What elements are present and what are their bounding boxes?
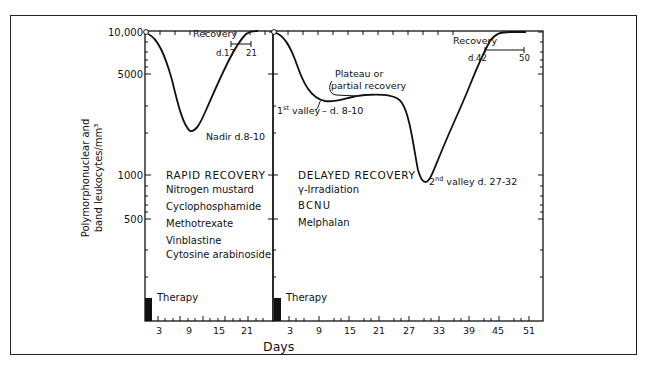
svg-text:10,000: 10,000: [108, 27, 143, 38]
svg-text:9: 9: [316, 325, 322, 336]
svg-text:21: 21: [373, 325, 385, 336]
svg-text:9: 9: [186, 325, 192, 336]
y-tick-labels: 10,000 5000 1000 500: [108, 27, 143, 225]
svg-text:d.42: d.42: [468, 53, 487, 63]
start-marker-rapid: [144, 30, 149, 35]
svg-text:Plateau or: Plateau or: [335, 68, 383, 79]
svg-text:Vinblastine: Vinblastine: [166, 235, 221, 246]
svg-text:γ-Irradiation: γ-Irradiation: [298, 184, 359, 195]
therapy-label-delayed: Therapy: [285, 292, 327, 303]
therapy-bar-delayed: [274, 298, 281, 321]
svg-text:Melphalan: Melphalan: [298, 217, 350, 228]
annotations-delayed: Plateau or partial recovery 1st valley –…: [277, 35, 530, 187]
curve-rapid-recovery: [148, 31, 258, 131]
svg-text:1000: 1000: [118, 170, 143, 181]
therapy-bar-rapid: [145, 298, 152, 321]
svg-text:Cyclophosphamide: Cyclophosphamide: [166, 201, 261, 212]
svg-text:Polymorphonuclear and: Polymorphonuclear and: [80, 119, 91, 238]
svg-text:51: 51: [523, 325, 535, 336]
svg-text:Methotrexate: Methotrexate: [166, 218, 233, 229]
svg-text:2nd valley d. 27-32: 2nd valley d. 27-32: [429, 175, 517, 187]
svg-text:DELAYED RECOVERY: DELAYED RECOVERY: [298, 169, 415, 181]
svg-text:Recovery: Recovery: [193, 28, 237, 39]
svg-text:50: 50: [519, 53, 530, 63]
svg-text:33: 33: [433, 325, 445, 336]
svg-text:1st valley: 1st valley: [277, 104, 321, 116]
svg-text:15: 15: [344, 325, 356, 336]
svg-text:band leukocytes/mm³: band leukocytes/mm³: [93, 124, 104, 233]
annotations-rapid: Recovery d.17 21 Nadir d.8-10: [193, 28, 265, 142]
x-axis-label: Days: [263, 339, 294, 354]
svg-text:d.17: d.17: [216, 48, 235, 58]
svg-text:15: 15: [213, 325, 225, 336]
x-tick-labels-delayed: 3 9 15 21 27 33 39 45 51: [287, 325, 535, 336]
therapy-label-rapid: Therapy: [156, 292, 198, 303]
svg-text:21: 21: [246, 48, 257, 58]
legend-rapid: RAPID RECOVERY Nitrogen mustard Cyclopho…: [166, 169, 271, 260]
chart-svg: Polymorphonuclear and band leukocytes/mm…: [0, 0, 646, 367]
svg-text:27: 27: [403, 325, 415, 336]
svg-text:45: 45: [492, 325, 504, 336]
y-axis-label: Polymorphonuclear and band leukocytes/mm…: [80, 119, 104, 238]
svg-text:Recovery: Recovery: [453, 35, 497, 46]
svg-text:Nitrogen mustard: Nitrogen mustard: [166, 184, 254, 195]
svg-text:5000: 5000: [118, 69, 143, 80]
svg-text:partial recovery: partial recovery: [331, 80, 407, 91]
svg-text:Cytosine arabinoside: Cytosine arabinoside: [166, 249, 271, 260]
svg-text:– d. 8-10: – d. 8-10: [322, 105, 363, 116]
svg-text:21: 21: [241, 325, 253, 336]
start-marker-delayed: [272, 30, 277, 35]
svg-text:BCNU: BCNU: [298, 200, 331, 211]
legend-delayed: DELAYED RECOVERY γ-Irradiation BCNU Melp…: [298, 169, 415, 228]
svg-text:39: 39: [463, 325, 475, 336]
svg-text:500: 500: [124, 214, 143, 225]
svg-text:RAPID RECOVERY: RAPID RECOVERY: [166, 169, 266, 181]
svg-text:Nadir d.8-10: Nadir d.8-10: [206, 131, 265, 142]
svg-text:3: 3: [287, 325, 293, 336]
svg-text:3: 3: [156, 325, 162, 336]
x-tick-labels-rapid: 3 9 15 21: [156, 325, 253, 336]
